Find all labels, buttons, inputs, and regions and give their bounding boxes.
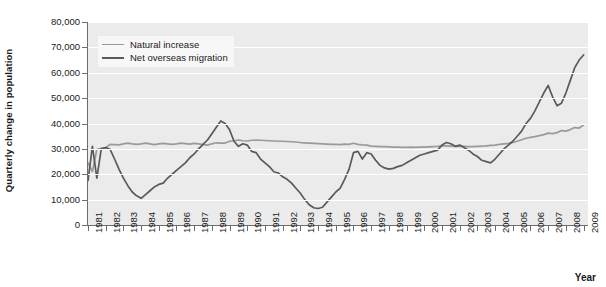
x-axis-tick-label-wrap: 2005 xyxy=(507,233,521,267)
x-axis-tick-label-wrap: 1986 xyxy=(170,233,184,267)
legend-item-natural-increase: Natural increase xyxy=(102,38,228,51)
gridline xyxy=(88,22,588,23)
y-axis-tick-mark xyxy=(82,174,87,175)
x-axis-tick-label: 2009 xyxy=(589,212,600,233)
y-axis-line xyxy=(87,22,88,226)
x-axis-tick-mark xyxy=(424,226,425,231)
x-axis-tick-label: 2003 xyxy=(482,212,493,233)
x-axis-tick-mark xyxy=(442,226,443,231)
x-axis-tick-label: 1988 xyxy=(217,212,228,233)
x-axis-tick-label: 2004 xyxy=(500,212,511,233)
y-axis-tick-label: 80,000 xyxy=(28,17,80,27)
x-axis-tick-label-wrap: 2007 xyxy=(542,233,556,267)
x-axis-tick-mark xyxy=(389,226,390,231)
y-axis-tick-labels: 010,00020,00030,00040,00050,00060,00070,… xyxy=(22,0,80,287)
x-axis-tick-label: 1990 xyxy=(252,212,263,233)
x-axis-tick-label: 2000 xyxy=(429,212,440,233)
x-axis-tick-label: 1991 xyxy=(270,212,281,233)
x-axis-tick-mark xyxy=(141,226,142,231)
x-axis-tick-label: 1981 xyxy=(93,212,104,233)
x-axis-tick-label: 1997 xyxy=(376,212,387,233)
y-axis-tick-mark xyxy=(82,22,87,23)
x-axis-tick-mark xyxy=(460,226,461,231)
legend-swatch-net-overseas-migration xyxy=(102,57,124,59)
x-axis-tick-label-wrap: 1985 xyxy=(153,233,167,267)
y-axis-title-text: Quarterly change in population xyxy=(4,48,15,191)
y-axis-tick-label: 0 xyxy=(28,220,80,230)
x-axis-tick-mark xyxy=(123,226,124,231)
x-axis-tick-label-wrap: 1994 xyxy=(312,233,326,267)
x-axis-tick-mark xyxy=(566,226,567,231)
x-axis-tick-label: 1994 xyxy=(323,212,334,233)
chart-legend: Natural increaseNet overseas migration xyxy=(98,36,234,67)
legend-item-net-overseas-migration: Net overseas migration xyxy=(102,51,228,64)
gridline xyxy=(88,73,588,74)
x-axis-tick-mark xyxy=(548,226,549,231)
x-axis-tick-label: 1999 xyxy=(412,212,423,233)
x-axis-tick-label-wrap: 1987 xyxy=(188,233,202,267)
x-axis-tick-mark xyxy=(477,226,478,231)
x-axis-tick-mark xyxy=(265,226,266,231)
gridline xyxy=(88,174,588,175)
y-axis-title: Quarterly change in population xyxy=(0,0,18,240)
x-axis-tick-label: 1998 xyxy=(394,212,405,233)
y-axis-tick-label: 50,000 xyxy=(28,93,80,103)
x-axis-title: Year xyxy=(575,272,596,283)
y-axis-tick-label: 20,000 xyxy=(28,169,80,179)
chart-figure: Quarterly change in population 010,00020… xyxy=(0,0,606,287)
x-axis-tick-label: 1983 xyxy=(128,212,139,233)
x-axis-tick-mark xyxy=(371,226,372,231)
x-axis-tick-mark xyxy=(336,226,337,231)
x-axis-tick-label-wrap: 1984 xyxy=(135,233,149,267)
x-axis-tick-label: 1985 xyxy=(164,212,175,233)
y-axis-tick-label: 70,000 xyxy=(28,42,80,52)
x-axis-tick-label-wrap: 2006 xyxy=(524,233,538,267)
x-axis-tick-label: 2008 xyxy=(571,212,582,233)
x-axis-tick-mark xyxy=(159,226,160,231)
x-axis-tick-mark xyxy=(530,226,531,231)
x-axis-tick-label-wrap: 1997 xyxy=(365,233,379,267)
x-axis-tick-mark xyxy=(300,226,301,231)
x-axis-tick-label: 1993 xyxy=(305,212,316,233)
x-axis-tick-mark xyxy=(495,226,496,231)
x-axis-tick-label-wrap: 2008 xyxy=(560,233,574,267)
x-axis-tick-label: 1989 xyxy=(235,212,246,233)
x-axis-tick-label-wrap: 1996 xyxy=(347,233,361,267)
x-axis-tick-mark xyxy=(247,226,248,231)
y-axis-tick-mark xyxy=(82,73,87,74)
x-axis-tick-label-wrap: 2003 xyxy=(471,233,485,267)
x-axis-tick-mark xyxy=(106,226,107,231)
x-axis-tick-mark xyxy=(584,226,585,231)
x-axis-tick-label-wrap: 1982 xyxy=(100,233,114,267)
x-axis-tick-label-wrap: 2001 xyxy=(436,233,450,267)
x-axis-tick-label-wrap: 1981 xyxy=(82,233,96,267)
x-axis-tick-label-wrap: 1995 xyxy=(330,233,344,267)
y-axis-tick-mark xyxy=(82,98,87,99)
x-axis-tick-label: 2006 xyxy=(535,212,546,233)
y-axis-tick-mark xyxy=(82,149,87,150)
x-axis-tick-label: 2001 xyxy=(447,212,458,233)
x-axis-tick-mark xyxy=(88,226,89,231)
x-axis-tick-label-wrap: 1992 xyxy=(277,233,291,267)
y-axis-tick-label: 10,000 xyxy=(28,195,80,205)
x-axis-tick-label: 1982 xyxy=(111,212,122,233)
x-axis-tick-label: 1995 xyxy=(341,212,352,233)
y-axis-tick-mark xyxy=(82,200,87,201)
x-axis-tick-mark xyxy=(318,226,319,231)
x-axis-tick-label-wrap: 1989 xyxy=(224,233,238,267)
x-axis-tick-label: 2002 xyxy=(465,212,476,233)
x-axis-tick-label-wrap: 1990 xyxy=(241,233,255,267)
x-axis-tick-label-wrap: 2000 xyxy=(418,233,432,267)
x-axis-tick-label-wrap: 1993 xyxy=(294,233,308,267)
y-axis-tick-label: 40,000 xyxy=(28,119,80,129)
x-axis-tick-label-wrap: 2002 xyxy=(454,233,468,267)
x-axis-tick-label-wrap: 1999 xyxy=(401,233,415,267)
x-axis-tick-mark xyxy=(283,226,284,231)
x-axis-tick-label-wrap: 2009 xyxy=(578,233,592,267)
x-axis-tick-label-wrap: 1983 xyxy=(117,233,131,267)
y-axis-tick-mark xyxy=(82,47,87,48)
x-axis-tick-label: 2005 xyxy=(518,212,529,233)
y-axis-tick-mark xyxy=(82,225,87,226)
x-axis-tick-mark xyxy=(230,226,231,231)
x-axis-tick-label: 1986 xyxy=(181,212,192,233)
